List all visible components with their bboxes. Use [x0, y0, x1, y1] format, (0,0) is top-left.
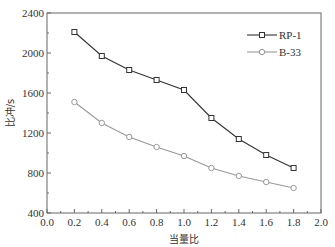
y-tick-label: 2000 — [22, 47, 45, 59]
x-axis-ticks: 0.00.20.40.60.81.01.21.41.61.82.0 — [40, 209, 328, 228]
y-tick-label: 2400 — [22, 7, 45, 19]
legend-item-b-33: B-33 — [247, 46, 302, 58]
square-marker — [99, 54, 104, 59]
circle-marker-icon — [259, 49, 264, 54]
y-tick-label: 1200 — [22, 127, 45, 139]
series-line — [74, 102, 293, 188]
legend-label: RP-1 — [279, 29, 302, 41]
square-marker — [264, 153, 269, 158]
x-tick-label: 0.6 — [122, 216, 136, 228]
x-tick-label: 0.4 — [95, 216, 109, 228]
circle-marker — [181, 153, 186, 158]
y-axis-title: 比冲/s — [4, 99, 16, 128]
x-tick-label: 1.2 — [205, 216, 219, 228]
square-marker — [154, 78, 159, 83]
circle-marker — [291, 185, 296, 190]
y-tick-label: 1600 — [22, 87, 45, 99]
legend-item-rp-1: RP-1 — [247, 29, 302, 41]
x-axis-title: 当量比 — [169, 233, 199, 245]
legend: RP-1B-33 — [247, 29, 302, 58]
line-chart: 0.00.20.40.60.81.01.21.41.61.82.0 400800… — [0, 0, 335, 247]
circle-marker — [264, 179, 269, 184]
x-tick-label: 1.6 — [259, 216, 273, 228]
circle-marker — [154, 144, 159, 149]
y-tick-label: 800 — [28, 167, 45, 179]
circle-marker — [209, 165, 214, 170]
x-tick-label: 1.0 — [177, 216, 191, 228]
square-marker — [72, 30, 77, 35]
square-marker — [127, 68, 132, 73]
series-b-33 — [72, 99, 297, 190]
x-tick-label: 2.0 — [314, 216, 328, 228]
circle-marker — [127, 134, 132, 139]
x-tick-label: 1.8 — [287, 216, 301, 228]
x-tick-label: 0.2 — [68, 216, 82, 228]
legend-label: B-33 — [279, 46, 302, 58]
square-marker — [291, 166, 296, 171]
circle-marker — [99, 120, 104, 125]
square-marker-icon — [260, 33, 265, 38]
square-marker — [182, 88, 187, 93]
y-tick-label: 400 — [28, 207, 45, 219]
x-tick-label: 0.8 — [150, 216, 164, 228]
x-tick-label: 1.4 — [232, 216, 246, 228]
square-marker — [236, 137, 241, 142]
circle-marker — [72, 99, 77, 104]
square-marker — [209, 116, 214, 121]
circle-marker — [236, 173, 241, 178]
